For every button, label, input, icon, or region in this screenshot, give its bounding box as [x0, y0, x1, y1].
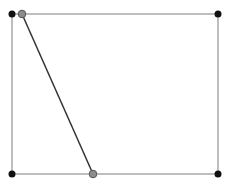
vertex-bottom-right[interactable]	[215, 171, 222, 178]
handle-bottom-handle[interactable]	[89, 170, 97, 178]
vertex-bottom-left[interactable]	[9, 171, 16, 178]
background	[0, 0, 229, 182]
diagram-canvas	[0, 0, 229, 182]
vertex-top-right[interactable]	[215, 11, 222, 18]
handle-top-handle[interactable]	[18, 10, 26, 18]
vertex-top-left[interactable]	[9, 11, 16, 18]
